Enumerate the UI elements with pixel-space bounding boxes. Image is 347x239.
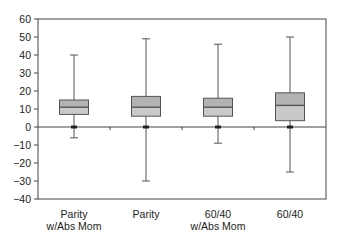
zero-marker	[287, 126, 293, 129]
category-label-line1: Parity	[133, 208, 161, 220]
box-upper	[60, 100, 89, 107]
y-tick-label: 20	[19, 85, 31, 97]
box-upper	[276, 93, 305, 106]
box-upper	[204, 98, 233, 107]
x-axis-labels: Parityw/Abs MomParity60/40w/Abs Mom60/40	[46, 208, 304, 232]
category-label-line2: w/Abs Mom	[46, 220, 102, 232]
box-lower	[276, 105, 305, 120]
y-tick-label: 30	[19, 67, 31, 79]
box-lower	[60, 107, 89, 114]
y-tick-label: −10	[13, 139, 31, 151]
y-tick-label: −20	[13, 157, 31, 169]
zero-marker	[71, 126, 77, 129]
y-tick-label: 60	[19, 13, 31, 25]
category-label-line1: 60/40	[277, 208, 303, 220]
category-label-line1: Parity	[61, 208, 89, 220]
zero-line	[38, 127, 326, 130]
box-plot-chart: 6050403020100−10−20−30−40 Parityw/Abs Mo…	[0, 0, 347, 239]
box-1	[60, 55, 89, 138]
box-lower	[132, 107, 161, 116]
y-tick-label: 0	[25, 121, 31, 133]
box-4	[276, 37, 305, 172]
zero-marker	[143, 126, 149, 129]
box-2	[132, 39, 161, 181]
category-label-line1: 60/40	[205, 208, 231, 220]
y-tick-label: 40	[19, 49, 31, 61]
y-tick-label: 10	[19, 103, 31, 115]
box-3	[204, 44, 233, 143]
boxes	[60, 37, 305, 181]
box-upper	[132, 96, 161, 107]
box-lower	[204, 107, 233, 116]
y-tick-label: −40	[13, 193, 31, 205]
category-label-line2: w/Abs Mom	[190, 220, 246, 232]
y-axis: 6050403020100−10−20−30−40	[13, 13, 38, 205]
y-tick-label: −30	[13, 175, 31, 187]
y-tick-label: 50	[19, 31, 31, 43]
zero-marker	[215, 126, 221, 129]
